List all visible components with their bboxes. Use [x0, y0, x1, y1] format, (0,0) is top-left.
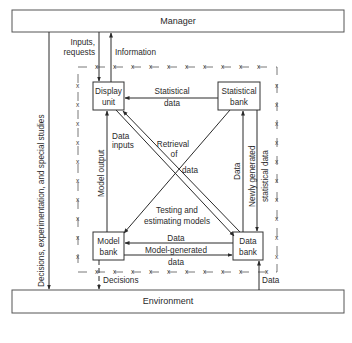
manager-node: Manager — [12, 10, 344, 32]
label-estimating: estimating models — [144, 217, 210, 226]
label-inputs: Inputs, — [70, 38, 95, 47]
svg-text:x: x — [76, 101, 80, 108]
svg-text:x: x — [76, 139, 80, 146]
label-statistical: Statistical — [154, 87, 189, 96]
svg-text:x: x — [275, 139, 279, 146]
label-information: Information — [115, 48, 156, 57]
svg-text:x: x — [275, 234, 279, 241]
label-model-output: Model output — [97, 149, 106, 197]
svg-text:x: x — [275, 196, 279, 203]
label-data-to-modelbank: Data — [167, 234, 185, 243]
svg-text:x: x — [275, 253, 279, 260]
svg-text:x: x — [149, 63, 153, 70]
svg-text:x: x — [113, 63, 117, 70]
svg-text:x: x — [185, 63, 189, 70]
svg-text:x: x — [76, 215, 80, 222]
svg-text:x: x — [265, 268, 269, 275]
svg-text:x: x — [167, 268, 171, 275]
svg-text:unit: unit — [102, 98, 116, 107]
svg-text:x: x — [275, 177, 279, 184]
display-unit-node: Display unit — [93, 82, 124, 110]
label-decisions-experimentation: Decisions, experimentation, and special … — [37, 115, 46, 288]
svg-text:x: x — [131, 63, 135, 70]
label-inputs2: inputs — [112, 141, 134, 150]
label-statistical-data-2: statistical data — [261, 150, 270, 202]
label-data-env: Data — [262, 276, 280, 285]
statistical-bank-node: Statistical bank — [218, 82, 260, 110]
label-decisions: Decisions — [103, 276, 139, 285]
label-data: Data — [112, 132, 130, 141]
svg-text:x: x — [95, 63, 99, 70]
svg-text:x: x — [76, 234, 80, 241]
svg-text:x: x — [221, 63, 225, 70]
svg-text:x: x — [203, 268, 207, 275]
data-bank-node: Data bank — [233, 232, 263, 260]
svg-text:x: x — [167, 63, 171, 70]
svg-text:x: x — [76, 177, 80, 184]
svg-text:x: x — [76, 82, 80, 89]
svg-text:Model: Model — [97, 237, 119, 246]
label-retrieval: Retrieval — [157, 140, 189, 149]
svg-text:Data: Data — [239, 237, 257, 246]
manager-label: Manager — [160, 16, 196, 26]
svg-text:bank: bank — [100, 248, 119, 257]
svg-text:x: x — [257, 63, 261, 70]
label-model-generated: Model-generated — [145, 246, 207, 255]
system-diagram: Manager Environment x x x x x x x x x x … — [0, 0, 352, 343]
svg-text:x: x — [275, 82, 279, 89]
svg-text:bank: bank — [239, 248, 258, 257]
label-requests: requests — [64, 48, 95, 57]
svg-text:Statistical: Statistical — [221, 87, 256, 96]
label-retrieval-data: data — [182, 166, 198, 175]
environment-label: Environment — [143, 296, 194, 306]
svg-text:x: x — [95, 268, 99, 275]
environment-node: Environment — [12, 290, 344, 313]
svg-text:x: x — [203, 63, 207, 70]
svg-text:x: x — [221, 268, 225, 275]
label-statistical-data: data — [164, 99, 180, 108]
svg-text:x: x — [185, 268, 189, 275]
svg-text:x: x — [76, 120, 80, 127]
svg-text:x: x — [76, 253, 80, 260]
svg-text:Display: Display — [95, 87, 123, 96]
model-bank-node: Model bank — [93, 232, 124, 260]
svg-text:x: x — [275, 158, 279, 165]
svg-text:x: x — [239, 63, 243, 70]
svg-text:x: x — [76, 196, 80, 203]
svg-text:x: x — [149, 268, 153, 275]
svg-text:x: x — [131, 268, 135, 275]
svg-text:x: x — [113, 268, 117, 275]
label-data-to-statbank: Data — [233, 162, 242, 180]
label-model-generated-data: data — [168, 258, 184, 267]
label-testing: Testing and — [156, 206, 198, 215]
svg-text:x: x — [275, 120, 279, 127]
svg-text:x: x — [275, 101, 279, 108]
svg-text:x: x — [76, 158, 80, 165]
svg-text:x: x — [239, 268, 243, 275]
label-newly-generated: Newly generated — [248, 145, 257, 207]
svg-text:bank: bank — [230, 98, 249, 107]
svg-text:x: x — [275, 215, 279, 222]
label-of: of — [171, 150, 179, 159]
